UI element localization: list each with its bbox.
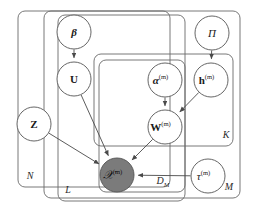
edge-h-to-W (180, 93, 199, 112)
edge-tau-to-X (138, 175, 190, 176)
plate-DM-label: DM (156, 175, 170, 187)
node-X: 𝒳(m) (100, 158, 134, 192)
node-h: h(m) (194, 63, 228, 97)
node-beta: β (57, 15, 91, 49)
node-Pi: Π (195, 16, 229, 50)
graph-canvas: βUΠh(m)α(m)W(m)Z𝒳(m)τ(m) NMLKDM (0, 0, 253, 215)
node-Z-label: Z (30, 117, 37, 129)
plate-L-label: L (64, 184, 71, 195)
node-Pi-label: Π (207, 26, 217, 38)
node-U: U (57, 62, 91, 96)
plate-N-label: N (26, 170, 35, 181)
node-beta-label: β (70, 25, 77, 37)
edge-Z-to-X (49, 133, 99, 164)
nodes-layer: βUΠh(m)α(m)W(m)Z𝒳(m)τ(m) (17, 15, 229, 193)
node-W: W(m) (148, 110, 182, 144)
edge-W-to-X (132, 139, 153, 160)
node-U-label: U (70, 72, 78, 84)
node-Z: Z (17, 107, 51, 141)
plate-M-label: M (224, 181, 234, 192)
graphical-model-diagram: βUΠh(m)α(m)W(m)Z𝒳(m)τ(m) NMLKDM (0, 0, 253, 215)
plate-K-label: K (222, 129, 231, 140)
node-tau: τ(m) (191, 159, 225, 193)
edge-U-to-X (81, 95, 108, 156)
node-alpha: α(m) (148, 63, 182, 97)
